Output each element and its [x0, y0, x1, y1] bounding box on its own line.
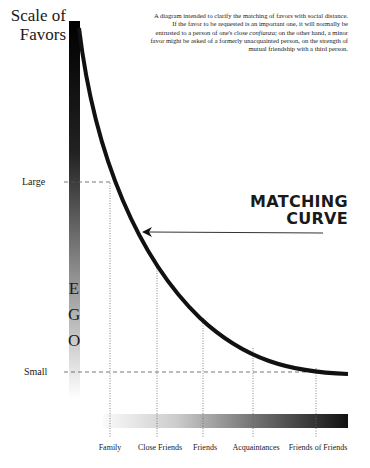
x-label-family: Family [99, 443, 122, 452]
diagram-caption: A diagram intended to clarify the matchi… [148, 12, 348, 53]
y-tick-small: Small [24, 366, 47, 377]
y-tick-large: Large [22, 176, 45, 187]
x-label-close-friends: Close Friends [138, 443, 182, 452]
matching-label-line-2: CURVE [250, 210, 348, 227]
x-label-friends-of-friends: Friends of Friends [289, 443, 348, 452]
caption-italic: confianza [249, 29, 275, 36]
matching-curve-label: MATCHING CURVE [250, 193, 348, 227]
y-axis-title-line-1: Scale of [4, 6, 66, 25]
x-label-acquaintances: Acquaintances [232, 443, 279, 452]
y-axis-title: Scale of Favors [4, 6, 66, 44]
ego-letter-e: E [68, 279, 80, 299]
diagram-canvas [0, 0, 370, 468]
curve-pointer-line [148, 232, 323, 233]
ego-letter-o: O [68, 331, 80, 351]
matching-label-line-1: MATCHING [250, 193, 348, 210]
y-axis-title-line-2: Favors [4, 25, 66, 44]
x-label-friends: Friends [193, 443, 217, 452]
social-distance-bar [103, 414, 348, 428]
ego-letter-g: G [68, 305, 80, 325]
